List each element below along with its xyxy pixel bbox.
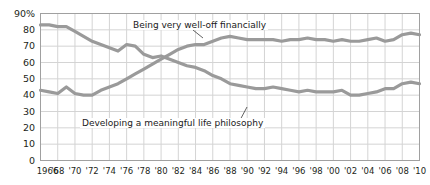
annotation-leader-line <box>193 30 203 38</box>
x-axis-tick-label: '10 <box>410 166 430 176</box>
y-axis-tick-label: 40 <box>0 89 35 100</box>
y-axis-tick-label: 30 <box>0 106 35 117</box>
y-axis-tick-label: 70 <box>0 40 35 51</box>
y-axis-tick-label: 20 <box>0 122 35 133</box>
y-axis-tick-label: 80 <box>0 24 35 35</box>
y-axis-tick-label: 0 <box>0 155 35 166</box>
y-axis-tick-label: 10 <box>0 138 35 149</box>
y-axis-tick-label: 60 <box>0 57 35 68</box>
series-annotation-label: Developing a meaningful life philosophy <box>80 118 265 128</box>
y-axis-tick-label: 90% <box>0 8 35 19</box>
series-annotation-label: Being very well-off financially <box>131 20 268 30</box>
y-axis-tick-label: 50 <box>0 73 35 84</box>
